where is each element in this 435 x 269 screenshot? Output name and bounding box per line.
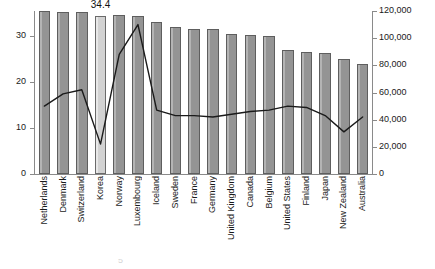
category-label-text: Germany: [208, 176, 217, 213]
right-axis-tick-label: 100,000: [379, 33, 412, 42]
right-axis-tick: [373, 147, 377, 148]
bottom-artifact: 5: [0, 259, 435, 269]
category-label-text: Switzerland: [77, 176, 86, 223]
x-axis-line: [34, 174, 373, 175]
category-label-text: Korea: [96, 176, 105, 200]
line-series-path: [44, 25, 362, 145]
left-axis-tick-label: 0: [0, 169, 26, 178]
category-label-switzerland: Switzerland: [72, 176, 91, 254]
left-axis-tick-label: 30: [0, 31, 26, 40]
bottom-artifact-text: 5: [118, 259, 123, 265]
category-label-sweden: Sweden: [166, 176, 185, 254]
category-label-text: Sweden: [171, 176, 180, 209]
category-label-australia: Australia: [353, 176, 372, 254]
right-axis-tick: [373, 65, 377, 66]
left-axis-tick: [30, 36, 34, 37]
category-label-text: Australia: [358, 176, 367, 211]
category-label-france: France: [185, 176, 204, 254]
category-label-japan: Japan: [316, 176, 335, 254]
category-label-text: Luxembourg: [133, 176, 142, 226]
right-axis-tick-label: 20,000: [379, 142, 407, 151]
left-axis-tick: [30, 174, 34, 175]
left-axis-tick: [30, 128, 34, 129]
category-label-text: Finland: [302, 176, 311, 206]
right-axis-tick: [373, 11, 377, 12]
left-axis-tick-label: 10: [0, 123, 26, 132]
right-axis-tick-label: 80,000: [379, 60, 407, 69]
category-label-text: Netherlands: [40, 176, 49, 225]
category-label-canada: Canada: [241, 176, 260, 254]
right-axis-tick-label: 60,000: [379, 88, 407, 97]
category-label-text: Norway: [115, 176, 124, 207]
category-label-text: United Kingdom: [227, 176, 236, 240]
right-axis-tick: [373, 38, 377, 39]
category-label-text: Japan: [321, 176, 330, 201]
category-label-netherlands: Netherlands: [35, 176, 54, 254]
left-axis-tick-label: 20: [0, 77, 26, 86]
x-axis-category-labels: NetherlandsDenmarkSwitzerlandKoreaNorway…: [35, 176, 372, 256]
right-axis-tick: [373, 93, 377, 94]
category-label-united-states: United States: [278, 176, 297, 254]
category-label-text: France: [190, 176, 199, 204]
line-series: [35, 11, 372, 174]
category-label-text: New Zealand: [339, 176, 348, 229]
category-label-text: Canada: [246, 176, 255, 208]
left-axis-tick: [30, 82, 34, 83]
category-label-iceland: Iceland: [147, 176, 166, 254]
category-label-finland: Finland: [297, 176, 316, 254]
category-label-korea: Korea: [91, 176, 110, 254]
right-axis-tick: [373, 174, 377, 175]
category-label-denmark: Denmark: [54, 176, 73, 254]
right-axis-tick: [373, 120, 377, 121]
right-axis-tick-label: 0: [379, 169, 384, 178]
category-label-text: United States: [283, 176, 292, 230]
category-label-belgium: Belgium: [260, 176, 279, 254]
category-label-text: Iceland: [152, 176, 161, 205]
category-label-norway: Norway: [110, 176, 129, 254]
category-label-united-kingdom: United Kingdom: [222, 176, 241, 254]
right-axis-tick-label: 40,000: [379, 115, 407, 124]
category-label-germany: Germany: [204, 176, 223, 254]
chart-root: 0102030 020,00040,00060,00080,000100,000…: [0, 0, 435, 269]
right-axis-tick-label: 120,000: [379, 6, 412, 15]
category-label-text: Belgium: [265, 176, 274, 209]
plot-area: [35, 11, 372, 174]
category-label-text: Denmark: [59, 176, 68, 213]
highlight-value-label: 34.4: [91, 0, 110, 10]
category-label-luxembourg: Luxembourg: [129, 176, 148, 254]
category-label-new-zealand: New Zealand: [335, 176, 354, 254]
